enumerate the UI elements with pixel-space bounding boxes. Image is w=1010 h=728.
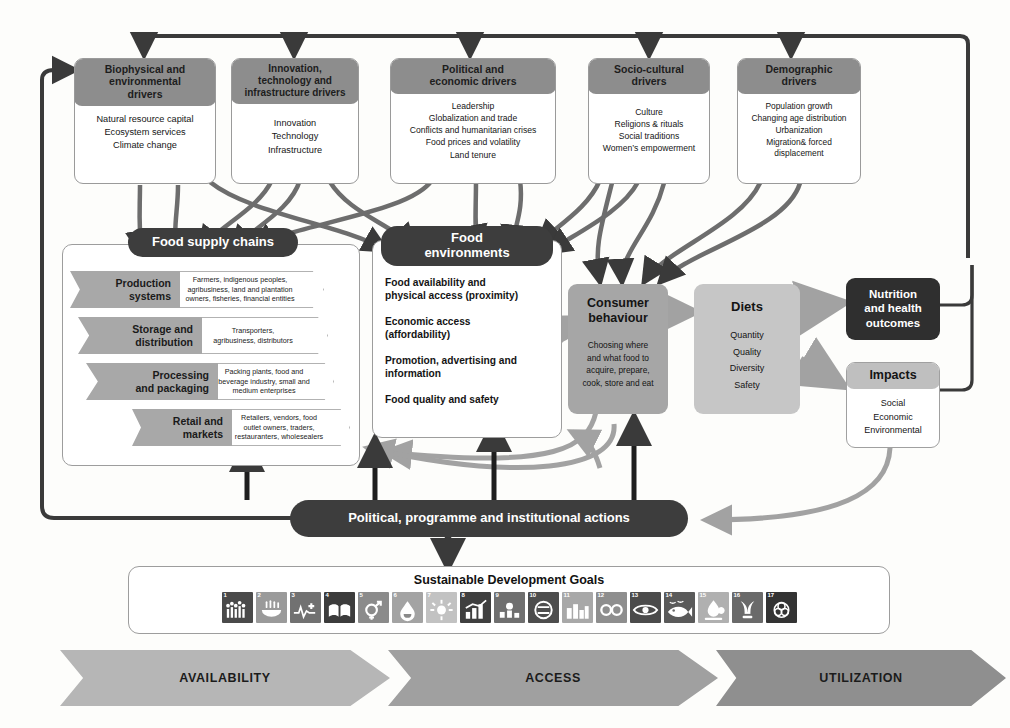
driver-title: Socio-cultural drivers [588,58,710,94]
driver-title: Demographic drivers [737,58,861,94]
driver-card-political-economic[interactable]: Political and economic drivers Leadershi… [390,58,556,184]
sdg-goal-3-good-health-icon[interactable]: 3 [290,592,321,623]
diets-items: Quantity Quality Diversity Safety [694,314,800,394]
impacts-box[interactable]: Impacts Social Economic Environmental [846,362,940,448]
sdg-goal-5-gender-equality-icon[interactable]: 5 [358,592,389,623]
supply-stage-production-systems[interactable]: Farmers, indigenous peoples, agribusines… [70,271,324,308]
impacts-items: Social Economic Environmental [847,389,939,438]
sdg-goal-13-climate-action-icon[interactable]: 13 [630,592,661,623]
driver-card-socio-cultural[interactable]: Socio-cultural drivers Culture Religions… [588,58,710,184]
food-environment-item: Economic access (affordability) [385,315,557,341]
sdg-goal-15-life-on-land-icon[interactable]: 15 [698,592,729,623]
driver-items: Innovation Technology Infrastructure [232,104,358,161]
sdg-goal-10-reduced-inequalities-icon[interactable]: 10 [528,592,559,623]
sdg-icon-row: 1 2 3 4 5 6 7 [129,587,889,623]
consumer-behaviour-box[interactable]: Consumer behaviour Choosing where and wh… [568,284,668,414]
driver-card-demographic[interactable]: Demographic drivers Population growth Ch… [737,58,861,184]
supply-stage-name: Retail and markets [132,409,232,446]
supply-stage-name: Production systems [70,271,180,308]
food-environments-items: Food availability and physical access (p… [385,276,557,419]
consumer-behaviour-subtitle: Choosing where and what food to acquire,… [568,326,668,389]
sdg-goal-12-responsible-consumption-icon[interactable]: 12 [596,592,627,623]
driver-title: Biophysical and environmental drivers [74,58,216,106]
banner-utilization: UTILIZATION [716,650,1006,706]
sdg-goal-7-affordable-energy-icon[interactable]: 7 [426,592,457,623]
sdg-goal-6-clean-water-icon[interactable]: 6 [392,592,423,623]
supply-stage-name: Storage and distribution [78,317,202,354]
driver-items: Culture Religions & rituals Social tradi… [589,94,709,160]
sdg-goal-11-sustainable-cities-icon[interactable]: 11 [562,592,593,623]
supply-stage-processing-packaging[interactable]: Packing plants, food and beverage indust… [86,363,334,400]
sdg-goal-1-no-poverty-icon[interactable]: 1 [222,592,253,623]
sdg-title: Sustainable Development Goals [129,567,889,587]
sdg-goal-16-peace-justice-icon[interactable]: 16 [732,592,763,623]
sdg-goal-2-zero-hunger-icon[interactable]: 2 [256,592,287,623]
diets-box[interactable]: Diets Quantity Quality Diversity Safety [694,284,800,414]
supply-stage-actors: Transporters, agribusiness, distributors [186,317,328,354]
sdg-goal-4-quality-education-icon[interactable]: 4 [324,592,355,623]
driver-card-biophysical[interactable]: Biophysical and environmental drivers Na… [74,58,216,184]
consumer-behaviour-title: Consumer behaviour [568,284,668,326]
banner-availability: AVAILABILITY [60,650,390,706]
supply-stage-name: Processing and packaging [86,363,218,400]
supply-stage-actors: Farmers, indigenous peoples, agribusines… [164,271,324,308]
supply-stage-actors: Retailers, vendors, food outlet owners, … [216,409,350,446]
food-environment-item: Promotion, advertising and information [385,354,557,380]
impacts-title: Impacts [846,362,940,389]
sdg-goal-14-life-below-water-icon[interactable]: 14 [664,592,695,623]
food-systems-diagram: Biophysical and environmental drivers Na… [0,0,1010,728]
driver-items: Population growth Changing age distribut… [738,94,860,166]
banner-access: ACCESS [388,650,718,706]
driver-items: Natural resource capital Ecosystem servi… [75,106,215,157]
food-environments-label[interactable]: Food environments [381,226,553,266]
driver-title: Innovation, technology and infrastructur… [231,58,359,104]
food-environment-item: Food quality and safety [385,393,557,406]
nutrition-title: Nutrition and health outcomes [846,278,940,330]
driver-card-innovation[interactable]: Innovation, technology and infrastructur… [231,58,359,184]
political-programme-institutional-actions-bar[interactable]: Political, programme and institutional a… [290,500,688,537]
sdg-goal-8-decent-work-icon[interactable]: 8 [460,592,491,623]
diets-title: Diets [694,284,800,314]
supply-stage-actors: Packing plants, food and beverage indust… [202,363,334,400]
supply-stage-retail-markets[interactable]: Retailers, vendors, food outlet owners, … [132,409,350,446]
driver-items: Leadership Globalization and trade Confl… [391,94,555,166]
sdg-goal-17-partnerships-icon[interactable]: 17 [766,592,797,623]
sdg-goal-9-industry-innovation-icon[interactable]: 9 [494,592,525,623]
sustainable-development-goals-panel: Sustainable Development Goals 1 2 3 4 5 [128,566,890,634]
nutrition-health-outcomes-box[interactable]: Nutrition and health outcomes [846,278,940,340]
food-supply-chains-label[interactable]: Food supply chains [128,228,298,257]
food-environment-item: Food availability and physical access (p… [385,276,557,302]
driver-title: Political and economic drivers [390,58,556,94]
supply-stage-storage-distribution[interactable]: Transporters, agribusiness, distributors… [78,317,328,354]
